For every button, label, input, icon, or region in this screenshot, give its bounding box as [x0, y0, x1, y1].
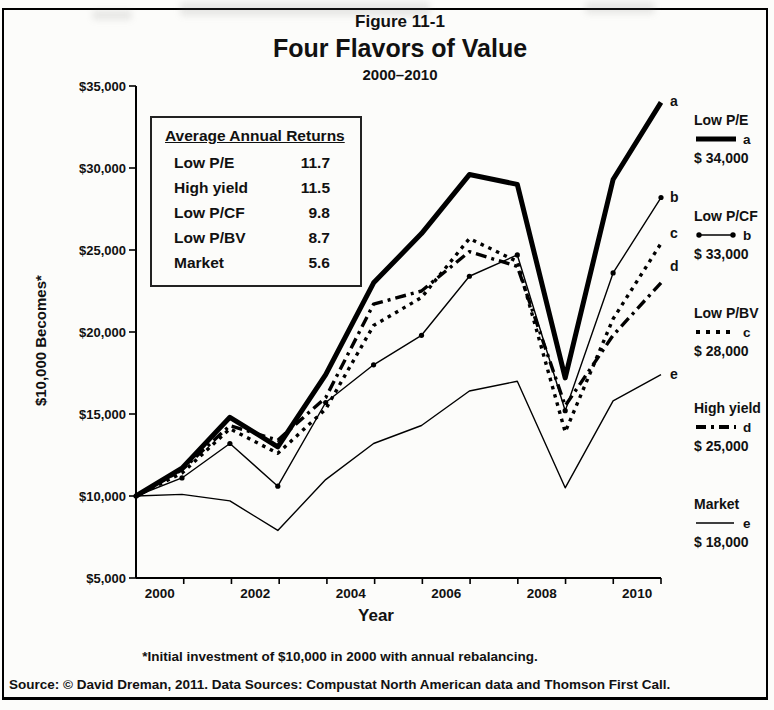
legend-letter: c [743, 325, 751, 340]
stats-label: Low P/E [174, 150, 234, 175]
line-sample-thick-solid-icon [694, 133, 738, 145]
line-sample-dot-marker-icon [694, 229, 738, 241]
series-end-label-c: c [670, 225, 678, 241]
y-tick-label: $35,000 [79, 79, 126, 94]
series-marker-b [419, 333, 424, 338]
figure-page: Figure 11-1 Four Flavors of Value 2000–2… [0, 0, 774, 710]
legend-entry-low-pe: Low P/E a $ 34,000 [694, 112, 772, 166]
legend-letter: d [743, 420, 751, 435]
x-tick-label: 2004 [336, 586, 367, 601]
line-chart: $35,000$30,000$25,000$20,000$15,000$10,0… [0, 0, 774, 710]
legend-name: Low P/CF [694, 208, 772, 224]
legend-letter: e [743, 516, 751, 531]
line-sample-thin-solid-icon [694, 517, 738, 529]
legend-letter: b [743, 228, 751, 243]
legend-entry-low-pbv: Low P/BV c $ 28,000 [694, 305, 772, 359]
y-tick-label: $20,000 [79, 325, 126, 340]
stats-row: Market 5.6 [165, 250, 360, 275]
y-tick-label: $15,000 [79, 407, 126, 422]
stats-label: Low P/BV [174, 225, 245, 250]
stats-value: 11.5 [301, 175, 330, 200]
stats-row: Low P/BV 8.7 [165, 225, 360, 250]
y-tick-label: $25,000 [79, 243, 126, 258]
stats-label: High yield [174, 175, 248, 200]
legend-name: Low P/BV [694, 305, 772, 321]
y-axis-title: $10,000 Becomes* [32, 329, 49, 349]
line-sample-dash-dot-icon [694, 421, 738, 433]
series-end-label-e: e [670, 366, 678, 382]
legend-amount: $ 33,000 [694, 246, 772, 262]
x-tick-label: 2006 [431, 586, 462, 601]
stats-row: High yield 11.5 [165, 175, 360, 200]
footnote: *Initial investment of $10,000 in 2000 w… [0, 649, 680, 664]
stats-value: 8.7 [308, 225, 330, 250]
legend-amount: $ 28,000 [694, 343, 772, 359]
stats-label: Low P/CF [174, 200, 245, 225]
legend-entry-high-yield: High yield d $ 25,000 [694, 400, 772, 454]
series-marker-b [515, 252, 520, 257]
stats-row: Low P/CF 9.8 [165, 200, 360, 225]
series-marker-b [371, 362, 376, 367]
stats-box: Average Annual Returns Low P/E 11.7 High… [150, 116, 362, 287]
stats-box-title: Average Annual Returns [165, 127, 360, 145]
line-sample-square-dot-icon [694, 326, 738, 338]
series-marker-b [611, 270, 616, 275]
series-end-label-a: a [670, 93, 678, 109]
series-marker-b [179, 475, 184, 480]
series-end-label-b: b [670, 189, 679, 205]
y-tick-label: $30,000 [79, 161, 126, 176]
legend-name: Market [694, 496, 772, 512]
stats-value: 9.8 [308, 200, 330, 225]
legend-amount: $ 25,000 [694, 438, 772, 454]
x-tick-label: 2010 [622, 586, 652, 601]
x-axis-title: Year [136, 606, 616, 626]
x-tick-label: 2008 [527, 586, 558, 601]
series-line-e [136, 375, 661, 531]
x-tick-label: 2000 [145, 586, 175, 601]
series-marker-b [467, 274, 472, 279]
y-tick-label: $5,000 [86, 571, 126, 586]
series-marker-b [275, 484, 280, 489]
stats-value: 5.6 [308, 250, 330, 275]
legend-entry-market: Market e $ 18,000 [694, 496, 772, 550]
legend-name: High yield [694, 400, 772, 416]
stats-label: Market [174, 250, 224, 275]
series-marker-b [227, 441, 232, 446]
stats-value: 11.7 [301, 150, 330, 175]
legend-amount: $ 18,000 [694, 534, 772, 550]
series-marker-b [658, 195, 663, 200]
series-line-d [136, 252, 661, 496]
series-end-label-d: d [670, 258, 679, 274]
legend-entry-low-pcf: Low P/CF b $ 33,000 [694, 208, 772, 262]
series-marker-b [563, 408, 568, 413]
legend-amount: $ 34,000 [694, 150, 772, 166]
y-tick-label: $10,000 [79, 489, 126, 504]
x-tick-label: 2002 [240, 586, 270, 601]
stats-row: Low P/E 11.7 [165, 150, 360, 175]
legend-letter: a [743, 132, 751, 147]
legend-name: Low P/E [694, 112, 772, 128]
source-line: Source: © David Dreman, 2011. Data Sourc… [9, 677, 670, 692]
